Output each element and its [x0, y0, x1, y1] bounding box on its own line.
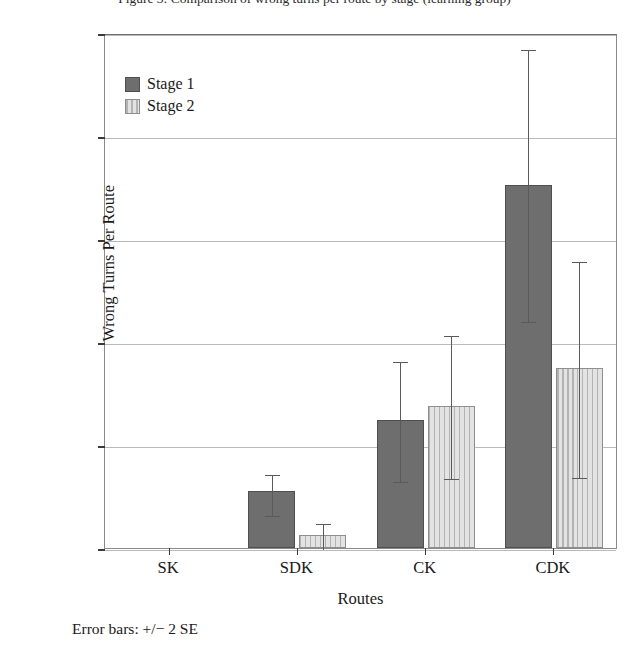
error-bar-cap-top [444, 336, 459, 337]
error-bar-ck-stage-2 [451, 336, 452, 480]
plot-area: Wrong Turns Per Route Stage 1 Stage 2 0.… [104, 34, 617, 549]
x-axis-tick-label: CK [365, 560, 485, 577]
legend-swatch-stage-1 [125, 77, 140, 92]
error-bar-cap-top [521, 50, 536, 51]
y-axis-tick [98, 549, 105, 551]
x-axis-tick [553, 548, 554, 555]
error-bar-cap-bottom [444, 479, 459, 480]
y-axis-title: Wrong Turns Per Route [99, 185, 119, 342]
legend-label-stage-1: Stage 1 [147, 76, 195, 92]
x-axis-tick-label: SDK [236, 560, 356, 577]
x-axis-tick [297, 548, 298, 555]
figure-container: Figure 3: Comparison of wrong turns per … [0, 0, 629, 664]
y-axis-tick [98, 343, 105, 345]
figure-caption-text: Figure 3: Comparison of wrong turns per … [0, 0, 629, 7]
legend-item: Stage 2 [125, 95, 195, 117]
legend-item: Stage 1 [125, 73, 195, 95]
error-bar-ck-stage-1 [400, 362, 401, 483]
error-bar-cdk-stage-2 [579, 262, 580, 480]
error-bar-cap-bottom [572, 478, 587, 479]
legend-swatch-stage-2 [125, 99, 140, 114]
y-gridline [105, 138, 616, 139]
y-gridline [105, 35, 616, 36]
y-axis-tick [98, 446, 105, 448]
y-axis-tick [98, 240, 105, 242]
error-bar-cap-top [265, 475, 280, 476]
error-bar-cap-bottom [393, 482, 408, 483]
x-axis-tick-label: SK [108, 560, 228, 577]
x-axis-title: Routes [104, 589, 617, 609]
y-axis-tick [98, 137, 105, 139]
error-bar-cap-top [316, 524, 331, 525]
error-bar-footnote: Error bars: +/− 2 SE [72, 620, 198, 638]
legend-label-stage-2: Stage 2 [147, 98, 195, 114]
figure-caption-clipped: Figure 3: Comparison of wrong turns per … [0, 0, 629, 7]
error-bar-cap-bottom [265, 516, 280, 517]
chart-legend: Stage 1 Stage 2 [125, 73, 195, 117]
error-bar-cap-bottom [521, 322, 536, 323]
error-bar-sdk-stage-2 [323, 524, 324, 550]
y-gridline [105, 550, 616, 551]
error-bar-cap-top [572, 262, 587, 263]
x-axis-tick-label: CDK [493, 560, 613, 577]
x-axis-tick [425, 548, 426, 555]
y-axis-tick [98, 34, 105, 36]
error-bar-sdk-stage-1 [272, 475, 273, 516]
x-axis-tick [169, 548, 170, 555]
error-bar-cap-top [393, 362, 408, 363]
error-bar-cdk-stage-1 [528, 50, 529, 323]
